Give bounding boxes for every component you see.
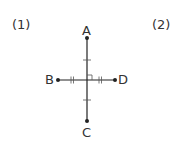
point-d-dot [113,78,117,82]
point-label-c: C [82,126,91,139]
point-label-a: A [82,24,91,37]
right-angle-marker [87,75,92,80]
point-label-d: D [118,73,128,86]
point-c-dot [85,119,89,123]
point-label-b: B [45,73,54,86]
point-b-dot [56,78,60,82]
